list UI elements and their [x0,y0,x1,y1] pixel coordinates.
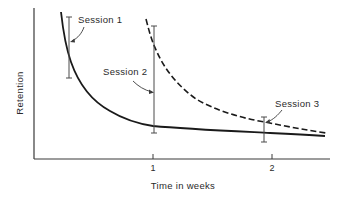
x-tick-label-1: 1 [150,163,155,173]
session-2-label: Session 2 [103,66,147,77]
x-tick-label-2: 2 [269,163,274,173]
session-3-arrow [265,110,282,123]
session-2-arrow [133,81,154,94]
retention-chart: 1 2 Time in weeks Retention Session 1 Se… [0,0,342,198]
session-1-arrow [70,27,84,43]
axes [34,8,330,159]
dashed-forgetting-curve [146,19,326,133]
session-1-label: Session 1 [78,14,122,25]
session-3-label: Session 3 [275,98,319,109]
x-axis-title: Time in weeks [151,180,215,191]
solid-forgetting-curve [61,12,325,136]
y-axis-title: Retention [14,71,25,114]
